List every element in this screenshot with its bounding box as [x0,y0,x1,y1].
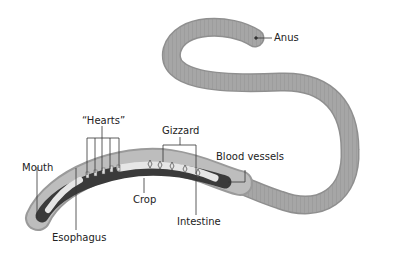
label-hearts: “Hearts” [82,115,125,126]
label-crop: Crop [133,194,156,205]
label-blood-vessels: Blood vessels [216,151,284,162]
label-gizzard: Gizzard [162,125,199,136]
label-mouth: Mouth [22,162,53,173]
label-anus: Anus [274,32,299,43]
label-esophagus: Esophagus [52,232,106,243]
label-intestine: Intestine [177,216,221,227]
